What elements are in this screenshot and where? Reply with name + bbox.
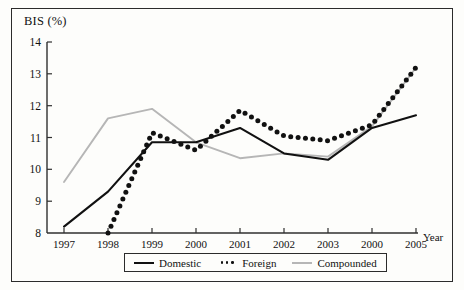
data-point-foreign bbox=[144, 142, 149, 147]
data-point-foreign bbox=[399, 83, 404, 88]
y-tick-label: 12 bbox=[30, 100, 42, 112]
data-point-foreign bbox=[332, 136, 337, 141]
data-point-foreign bbox=[132, 170, 137, 175]
data-point-foreign bbox=[111, 217, 116, 222]
data-point-foreign bbox=[404, 78, 409, 83]
data-point-foreign bbox=[395, 89, 400, 94]
legend-item-domestic: Domestic bbox=[134, 257, 201, 269]
data-point-foreign bbox=[310, 137, 315, 142]
data-point-foreign bbox=[165, 136, 170, 141]
x-tick-label: 1998 bbox=[97, 238, 120, 250]
x-tick-label: 2000 bbox=[185, 238, 208, 250]
data-point-foreign bbox=[408, 72, 413, 77]
legend-label: Domestic bbox=[159, 257, 201, 269]
data-point-foreign bbox=[114, 210, 119, 215]
y-tick-label: 13 bbox=[30, 68, 42, 80]
data-point-foreign bbox=[296, 135, 301, 140]
data-point-foreign bbox=[339, 133, 344, 138]
chart-figure: BIS (%) bbox=[0, 0, 464, 290]
data-point-foreign bbox=[318, 137, 323, 142]
data-series-layer bbox=[64, 66, 418, 236]
data-point-foreign bbox=[192, 147, 197, 152]
plot-area: 14 13 12 11 10 9 8 1997 1998 1999 2000 2… bbox=[0, 0, 464, 290]
x-tick-label: 2001 bbox=[229, 238, 251, 250]
data-point-foreign bbox=[106, 231, 111, 236]
y-tick-label: 9 bbox=[35, 195, 41, 207]
data-point-foreign bbox=[325, 138, 330, 143]
data-point-foreign bbox=[262, 122, 267, 127]
legend-item-foreign: Foreign bbox=[217, 257, 276, 269]
data-point-foreign bbox=[158, 134, 163, 139]
data-point-foreign bbox=[220, 124, 225, 129]
data-point-foreign bbox=[231, 114, 236, 119]
data-point-foreign bbox=[288, 134, 293, 139]
data-point-foreign bbox=[172, 139, 177, 144]
series-dots-foreign bbox=[106, 66, 418, 236]
data-point-foreign bbox=[135, 163, 140, 168]
y-tick-labels: 14 13 12 11 10 9 8 bbox=[30, 36, 42, 239]
data-point-foreign bbox=[108, 224, 113, 229]
data-point-foreign bbox=[185, 144, 190, 149]
axes bbox=[47, 42, 418, 233]
x-tick-labels: 1997 1998 1999 2000 2001 2002 2003 2000 … bbox=[53, 238, 428, 250]
x-tick-label: 1997 bbox=[53, 238, 76, 250]
x-tick-label: 2003 bbox=[317, 238, 340, 250]
x-tick-marks bbox=[64, 228, 416, 233]
data-point-foreign bbox=[255, 118, 260, 123]
legend-item-compounded: Compounded bbox=[292, 257, 376, 269]
y-tick-label: 8 bbox=[35, 227, 41, 239]
data-point-foreign bbox=[249, 115, 254, 120]
data-point-foreign bbox=[360, 126, 365, 131]
data-point-foreign bbox=[303, 136, 308, 141]
legend-label: Foreign bbox=[242, 257, 276, 269]
y-tick-label: 14 bbox=[30, 36, 42, 48]
data-point-foreign bbox=[141, 149, 146, 154]
data-point-foreign bbox=[390, 95, 395, 100]
legend-label: Compounded bbox=[317, 257, 376, 269]
series-line-compounded bbox=[64, 67, 416, 182]
data-point-foreign bbox=[413, 66, 418, 71]
data-point-foreign bbox=[381, 107, 386, 112]
data-point-foreign bbox=[198, 144, 203, 149]
data-point-foreign bbox=[281, 133, 286, 138]
data-point-foreign bbox=[214, 129, 219, 134]
data-point-foreign bbox=[147, 136, 152, 141]
data-point-foreign bbox=[377, 113, 382, 118]
data-point-foreign bbox=[126, 183, 131, 188]
x-axis-title: Year bbox=[423, 231, 443, 243]
data-point-foreign bbox=[203, 139, 208, 144]
data-point-foreign bbox=[243, 111, 248, 116]
x-tick-label: 2000 bbox=[361, 238, 384, 250]
chart-legend: Domestic Foreign Compounded bbox=[124, 253, 387, 272]
data-point-foreign bbox=[372, 119, 377, 124]
data-point-foreign bbox=[178, 142, 183, 147]
data-point-foreign bbox=[353, 128, 358, 133]
data-point-foreign bbox=[225, 119, 230, 124]
data-point-foreign bbox=[209, 134, 214, 139]
gray-line-swatch-icon bbox=[292, 258, 312, 268]
data-point-foreign bbox=[386, 101, 391, 106]
solid-line-swatch-icon bbox=[134, 258, 154, 268]
data-point-foreign bbox=[138, 156, 143, 161]
y-tick-label: 10 bbox=[30, 163, 42, 175]
data-point-foreign bbox=[236, 109, 241, 114]
x-tick-label: 1999 bbox=[141, 238, 164, 250]
y-tick-label: 11 bbox=[30, 132, 41, 144]
data-point-foreign bbox=[367, 123, 372, 128]
x-tick-label: 2002 bbox=[273, 238, 295, 250]
data-point-foreign bbox=[129, 176, 134, 181]
data-point-foreign bbox=[117, 203, 122, 208]
data-point-foreign bbox=[120, 197, 125, 202]
data-point-foreign bbox=[346, 131, 351, 136]
y-tick-marks bbox=[47, 42, 52, 201]
data-point-foreign bbox=[275, 129, 280, 134]
dotted-line-swatch-icon bbox=[217, 258, 237, 268]
data-point-foreign bbox=[268, 126, 273, 131]
data-point-foreign bbox=[151, 131, 156, 136]
data-point-foreign bbox=[123, 190, 128, 195]
